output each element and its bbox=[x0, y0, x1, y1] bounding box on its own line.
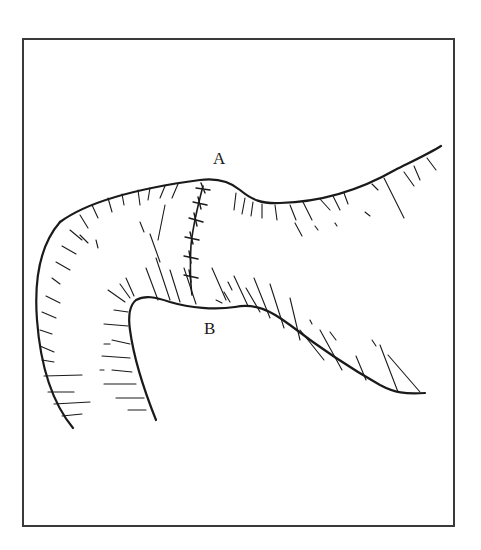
figure-caption bbox=[24, 542, 454, 550]
suture-stitches bbox=[184, 183, 210, 282]
inner-limb-contour bbox=[129, 297, 235, 420]
anastomosis-illustration bbox=[0, 0, 481, 550]
hatching-upper-right bbox=[234, 158, 436, 236]
label-b: B bbox=[204, 320, 215, 337]
hatching-left-lobe bbox=[40, 184, 178, 416]
lower-contour bbox=[235, 306, 425, 393]
upper-contour bbox=[60, 146, 441, 222]
hatching-lower-right bbox=[212, 268, 420, 392]
label-a: A bbox=[213, 150, 225, 167]
hatching-bend bbox=[140, 205, 196, 304]
left-outer-contour bbox=[36, 222, 73, 428]
